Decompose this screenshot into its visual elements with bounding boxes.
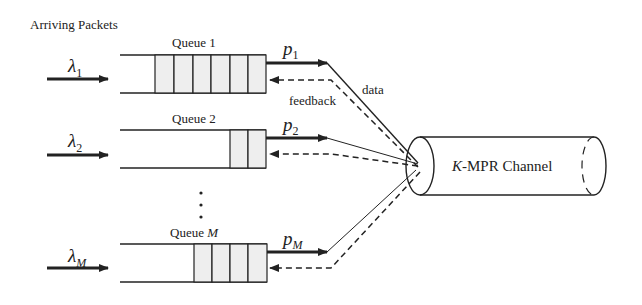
lambda-1-label: λ1 — [67, 55, 82, 80]
feedback-label: feedback — [289, 93, 336, 108]
p-1-label: p1 — [281, 38, 299, 62]
packet-cell — [193, 55, 211, 93]
queue-1-label: Queue 1 — [172, 35, 216, 50]
mpr-queue-diagram: Arriving Packets Queue 1 λ1 p1 data feed… — [0, 0, 642, 305]
packet-cell — [155, 55, 174, 93]
arriving-packets-title: Arriving Packets — [30, 17, 118, 32]
channel-back-face — [594, 137, 606, 195]
queue-m-packets — [194, 244, 267, 282]
queue-2-label: Queue 2 — [172, 111, 216, 126]
feedback-link-2 — [270, 154, 418, 166]
packet-cell — [212, 244, 230, 282]
p-m-label: pM — [281, 228, 304, 252]
packet-cell — [230, 244, 248, 282]
data-link-m — [327, 170, 416, 252]
lambda-2-label: λ2 — [67, 130, 82, 155]
packet-cell — [211, 55, 230, 93]
queue-m: Queue M λM pM — [47, 170, 420, 282]
channel-front-face — [406, 137, 434, 195]
channel-label: K-MPR Channel — [451, 158, 552, 174]
queue-2-packets — [230, 130, 266, 168]
packet-cell — [194, 244, 212, 282]
packet-cell — [248, 55, 266, 93]
data-label: data — [362, 82, 384, 97]
data-link-1 — [327, 63, 418, 163]
lambda-m-label: λM — [67, 245, 87, 270]
packet-cell — [248, 244, 267, 282]
packet-cell — [174, 55, 193, 93]
queue-m-label: Queue M — [170, 225, 219, 240]
ellipsis-dots — [199, 191, 202, 218]
p-2-label: p2 — [281, 114, 299, 138]
packet-cell — [248, 130, 266, 168]
queue-2: Queue 2 λ2 p2 — [47, 111, 418, 168]
queue-1-packets — [155, 55, 266, 93]
k-mpr-channel: K-MPR Channel — [406, 137, 606, 195]
packet-cell — [230, 130, 248, 168]
channel-back-face-hidden — [582, 137, 594, 195]
packet-cell — [230, 55, 248, 93]
